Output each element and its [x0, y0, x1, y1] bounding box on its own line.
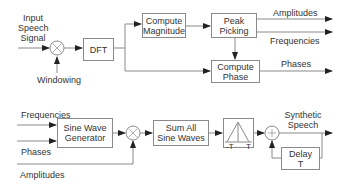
windowing-label: Windowing — [37, 75, 81, 85]
dft-label: DFT — [90, 45, 108, 55]
compute-magnitude-line1: Compute — [146, 16, 183, 26]
to-magnitude-arrow — [113, 24, 141, 48]
sum-all-line2: Sine Waves — [157, 133, 205, 143]
sum-all-line1: Sum All — [166, 123, 197, 133]
sum-all-sine-waves-block: Sum All Sine Waves — [153, 120, 209, 146]
amplitudes-output-label: Amplitudes — [273, 8, 318, 18]
compute-magnitude-block: Compute Magnitude — [142, 13, 186, 38]
phases-output-label: Phases — [281, 59, 311, 69]
input-speech-signal-label: Input Speech Signal — [18, 13, 48, 43]
feedback-line — [320, 133, 322, 158]
input-label-line2: Speech — [18, 23, 48, 33]
delay-line1: Delay — [289, 149, 312, 159]
compute-phase-line1: Compute — [217, 62, 254, 72]
input-label-line1: Input — [18, 13, 48, 23]
synthetic-speech-label: Synthetic Speech — [283, 110, 323, 130]
sine-wave-generator-block: Sine Wave Generator — [57, 118, 113, 148]
frequencies-output-label: Frequencies — [270, 36, 320, 46]
peak-picking-block: Peak Picking — [211, 13, 257, 38]
to-phase-arrow — [125, 48, 210, 71]
phases-input-label: Phases — [21, 147, 51, 157]
delay-block: Delay T — [281, 147, 320, 170]
window-minus-t-label: -T — [226, 142, 234, 152]
synthetic-speech-line1: Synthetic — [283, 110, 323, 120]
peak-picking-line1: Peak — [224, 16, 245, 26]
compute-magnitude-line2: Magnitude — [143, 26, 185, 36]
sine-wave-generator-line1: Sine Wave — [63, 123, 106, 133]
synthetic-speech-line2: Speech — [283, 120, 323, 130]
window-t-label: T — [246, 142, 251, 152]
compute-phase-line2: Phase — [223, 72, 249, 82]
delay-line2: T — [298, 159, 304, 169]
delay-to-adder-arrow — [272, 141, 281, 158]
dft-block: DFT — [83, 38, 114, 61]
sine-wave-generator-line2: Generator — [65, 133, 106, 143]
amplitudes-input-label: Amplitudes — [20, 170, 65, 180]
compute-phase-block: Compute Phase — [211, 60, 260, 83]
peak-picking-line2: Picking — [219, 26, 248, 36]
input-label-line3: Signal — [18, 33, 48, 43]
